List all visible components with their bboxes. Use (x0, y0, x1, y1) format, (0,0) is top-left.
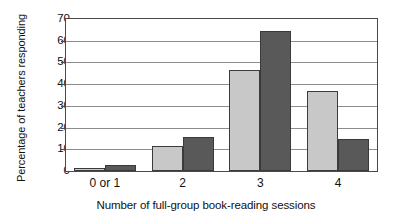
bar (260, 31, 291, 171)
bar-group (74, 19, 136, 171)
x-axis-tick-label: 0 or 1 (65, 176, 145, 190)
y-axis-title: Percentage of teachers responding (14, 8, 28, 188)
bar (229, 70, 260, 171)
bar (152, 146, 183, 171)
x-axis-tick-label: 4 (298, 176, 378, 190)
bar (183, 137, 214, 171)
bar-series-layer (66, 19, 377, 171)
bar (307, 91, 338, 171)
bar-chart-figure: Percentage of teachers responding 010203… (0, 0, 412, 223)
bar-group (229, 19, 291, 171)
bar (105, 165, 136, 172)
x-axis-tick-label: 2 (143, 176, 223, 190)
x-axis-title: Number of full-group book-reading sessio… (0, 198, 412, 212)
bar (74, 168, 105, 171)
bar (338, 139, 369, 171)
bar-group (152, 19, 214, 171)
bar-group (307, 19, 369, 171)
x-axis-tick-label: 3 (220, 176, 300, 190)
